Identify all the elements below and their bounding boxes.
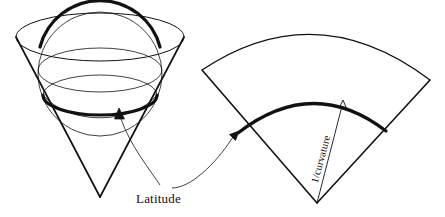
sector-latitude-arc bbox=[238, 103, 386, 133]
sphere-equator-ellipse bbox=[38, 48, 162, 92]
sphere-outline bbox=[38, 12, 162, 136]
latitude-circle-front bbox=[43, 95, 157, 115]
latitude-leader-left bbox=[121, 119, 160, 185]
geometry-diagram: 1/curvature Latitude bbox=[0, 0, 445, 217]
figure-container: 1/curvature Latitude bbox=[0, 0, 445, 217]
sector-edge-right bbox=[317, 80, 430, 203]
right-panel-sector: 1/curvature bbox=[202, 34, 430, 203]
sector-edge-left bbox=[202, 70, 317, 203]
latitude-label: Latitude bbox=[136, 191, 181, 206]
latitude-leader-right bbox=[172, 137, 233, 188]
sphere-great-circle-arc bbox=[40, 1, 160, 47]
sector-outer-arc bbox=[202, 34, 430, 80]
curvature-label: 1/curvature bbox=[309, 134, 332, 184]
cone-top-ellipse bbox=[16, 13, 184, 61]
latitude-arrowhead-right bbox=[230, 131, 240, 141]
left-panel-cone-sphere bbox=[16, 1, 184, 197]
annotation-leaders: Latitude bbox=[115, 108, 240, 206]
